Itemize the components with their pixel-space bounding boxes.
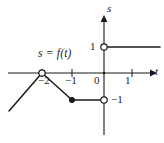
graph-canvas — [0, 0, 164, 143]
tick-label-zero: 0 — [94, 75, 100, 86]
t-axis — [8, 70, 157, 77]
value-label-neg-one: −1 — [111, 94, 123, 105]
open-point-upper — [101, 44, 107, 50]
tick-label-one: 1 — [125, 75, 131, 86]
s-axis-label: s — [107, 3, 111, 14]
tick-label-neg-two: −2 — [38, 75, 50, 86]
tick-label-neg-one: −1 — [65, 75, 77, 86]
origin-point — [103, 72, 106, 75]
open-point-lower — [101, 97, 107, 103]
function-equation-label: s = f(t) — [38, 48, 72, 60]
s-axis — [101, 15, 108, 135]
t-axis-label: t — [155, 66, 158, 77]
s-axis-arrowhead — [101, 15, 108, 22]
closed-point-corner — [69, 97, 74, 102]
value-label-one: 1 — [90, 41, 96, 52]
function-graph-figure: s t s = f(t) −2 −1 0 1 1 −1 — [0, 0, 164, 143]
